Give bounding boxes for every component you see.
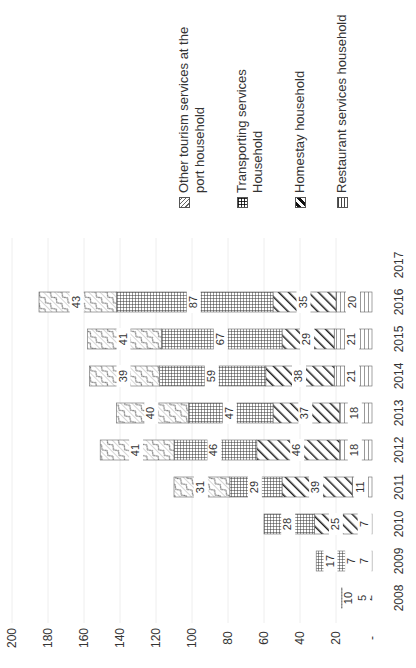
value-tick-label: 160 (77, 628, 91, 648)
legend-label: Other tourism services at the port house… (176, 8, 208, 193)
wave-hatch-swatch-icon (179, 197, 190, 208)
data-label: 28 (281, 513, 295, 535)
data-label: 43 (70, 291, 84, 313)
svg-text:28: 28 (281, 518, 293, 530)
svg-text:46: 46 (290, 444, 302, 456)
year-tick-label: 2011 (392, 474, 406, 500)
bars (39, 292, 372, 608)
data-label: 39 (309, 476, 323, 498)
data-label: 11 (354, 476, 368, 498)
legend-item-restaurant: Restaurant services household (334, 8, 350, 208)
svg-text:47: 47 (223, 407, 235, 419)
value-tick-label: 180 (41, 628, 55, 648)
data-label: 10 (342, 587, 356, 609)
data-label: 67 (214, 328, 228, 350)
svg-text:29: 29 (248, 481, 260, 493)
data-label: 20 (346, 291, 360, 313)
data-label: 29 (248, 476, 262, 498)
svg-text:46: 46 (207, 444, 219, 456)
year-tick-label: 2017 (392, 251, 406, 278)
value-tick-label: 20 (329, 631, 343, 645)
svg-text:7: 7 (345, 558, 357, 564)
svg-text:39: 39 (309, 481, 321, 493)
data-label: 25 (329, 513, 343, 535)
year-tick-label: 2009 (392, 547, 406, 574)
year-tick-label: 2013 (392, 399, 406, 426)
data-label: 46 (290, 439, 304, 461)
svg-text:41: 41 (129, 444, 141, 456)
svg-text:87: 87 (187, 296, 199, 308)
grid-swatch-icon (237, 197, 248, 208)
svg-text:31: 31 (194, 481, 206, 493)
value-axis-ticks: -20406080100120140160180200 (5, 628, 379, 648)
svg-text:40: 40 (144, 407, 156, 419)
data-label: 21 (345, 365, 359, 387)
svg-text:20: 20 (346, 296, 358, 308)
data-label: 40 (144, 402, 158, 424)
data-label: 18 (348, 439, 362, 461)
svg-text:38: 38 (292, 370, 304, 382)
data-label: 5 (356, 587, 370, 609)
data-label: 7 (358, 513, 372, 535)
value-tick-label: 40 (293, 631, 307, 645)
year-tick-label: 2010 (392, 510, 406, 537)
legend-label: Transporting services Household (234, 8, 266, 193)
chart-stage: 2510771772528113929311846464118374740213… (0, 0, 416, 668)
legend-item-homestay: Homestay household (292, 8, 308, 208)
svg-text:7: 7 (358, 558, 370, 564)
data-label: 41 (117, 328, 131, 350)
data-label: 18 (348, 402, 362, 424)
value-tick-label: 100 (185, 628, 199, 648)
svg-text:39: 39 (117, 370, 129, 382)
year-tick-label: 2008 (392, 584, 406, 611)
data-label: 41 (129, 439, 143, 461)
data-label: 21 (345, 328, 359, 350)
data-label: 47 (223, 402, 237, 424)
value-tick-label: - (365, 636, 379, 640)
svg-text:37: 37 (298, 407, 310, 419)
data-label: 7 (345, 550, 359, 572)
svg-text:25: 25 (329, 518, 341, 530)
svg-text:41: 41 (117, 333, 129, 345)
data-label: 7 (358, 550, 372, 572)
svg-text:18: 18 (348, 444, 360, 456)
data-label: 37 (298, 402, 312, 424)
legend-item-transport: Transporting services Household (234, 8, 266, 208)
data-label: 46 (207, 439, 221, 461)
value-tick-label: 120 (149, 628, 163, 648)
legend-item-other: Other tourism services at the port house… (176, 8, 208, 208)
svg-text:29: 29 (300, 333, 312, 345)
year-axis-ticks: 2008200920102011201220132014201520162017 (392, 251, 406, 611)
svg-text:59: 59 (205, 370, 217, 382)
data-label: 39 (117, 365, 131, 387)
year-tick-label: 2014 (392, 362, 406, 389)
data-label: 31 (194, 476, 208, 498)
svg-text:11: 11 (354, 481, 366, 492)
year-tick-label: 2012 (392, 436, 406, 463)
svg-text:43: 43 (70, 296, 82, 308)
value-tick-label: 140 (113, 628, 127, 648)
svg-text:18: 18 (348, 407, 360, 419)
svg-text:35: 35 (297, 296, 309, 308)
legend-label: Homestay household (292, 8, 308, 193)
legend-label: Restaurant services household (334, 8, 350, 193)
value-tick-label: 80 (221, 631, 235, 645)
hline-swatch-icon (337, 197, 348, 208)
svg-text:7: 7 (358, 521, 370, 527)
value-tick-label: 60 (257, 631, 271, 645)
svg-text:21: 21 (345, 370, 357, 382)
year-tick-label: 2015 (392, 325, 406, 352)
svg-text:10: 10 (342, 592, 354, 604)
svg-text:5: 5 (356, 595, 368, 601)
value-tick-label: 200 (5, 628, 19, 648)
data-label: 17 (324, 550, 338, 572)
data-label: 35 (297, 291, 311, 313)
data-label: 29 (300, 328, 314, 350)
legend: Other tourism services at the port house… (176, 8, 376, 208)
data-label: 87 (187, 291, 201, 313)
data-label: 59 (205, 365, 219, 387)
svg-text:67: 67 (214, 333, 226, 345)
svg-text:21: 21 (345, 333, 357, 345)
year-tick-label: 2016 (392, 288, 406, 315)
diagonal-swatch-icon (295, 197, 306, 208)
